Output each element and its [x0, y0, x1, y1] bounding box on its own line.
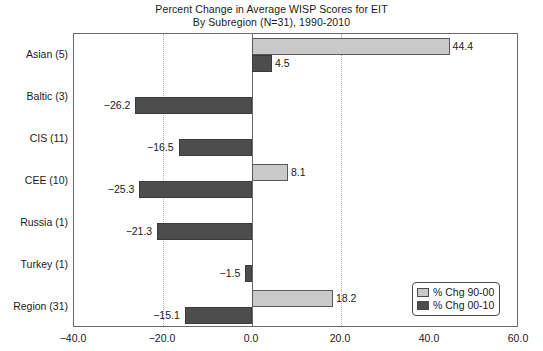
- y-axis-label-region-31-: Region (31): [0, 300, 74, 312]
- bar-cee-10--s1: [139, 181, 252, 198]
- gridline: [341, 34, 343, 326]
- chart-legend: % Chg 90-00 % Chg 00-10: [412, 282, 500, 316]
- x-tick-label: 60.0: [508, 332, 528, 344]
- bar-value-label: 4.5: [275, 55, 290, 72]
- chart-subtitle: By Subregion (N=31), 1990-2010: [0, 16, 543, 29]
- x-tick-label: −40.0: [60, 332, 87, 344]
- legend-swatch-icon-light: [417, 288, 429, 297]
- bar-value-label: −25.3: [108, 181, 135, 198]
- y-axis-label-cis-11-: CIS (11): [0, 132, 74, 144]
- y-axis-label-turkey-1-: Turkey (1): [0, 258, 74, 270]
- bar-region-31--s0: [252, 290, 333, 307]
- bar-value-label: −15.1: [153, 307, 180, 324]
- y-axis-labels: Asian (5)Baltic (3)CIS (11)CEE (10)Russi…: [0, 33, 68, 327]
- bar-turkey-1--s1: [245, 265, 252, 282]
- bar-value-label: −16.5: [147, 139, 174, 156]
- bar-russia-1--s1: [157, 223, 252, 240]
- y-axis-label-asian-5-: Asian (5): [0, 48, 74, 60]
- x-tick-label: 20.0: [330, 332, 350, 344]
- chart-title-block: Percent Change in Average WISP Scores fo…: [0, 3, 543, 29]
- bar-cis-11--s1: [179, 139, 252, 156]
- y-axis-label-baltic-3-: Baltic (3): [0, 90, 74, 102]
- bar-value-label: −1.5: [220, 265, 241, 282]
- y-axis-label-cee-10-: CEE (10): [0, 174, 74, 186]
- x-tick-label: 0.0: [244, 332, 259, 344]
- gridline: [163, 34, 165, 326]
- legend-item-chg-90-00: % Chg 90-00: [417, 286, 494, 299]
- y-axis-label-russia-1-: Russia (1): [0, 216, 74, 228]
- x-tick-label: −20.0: [149, 332, 176, 344]
- bar-value-label: −21.3: [126, 223, 153, 240]
- bar-baltic-3--s1: [135, 97, 252, 114]
- bar-value-label: 18.2: [336, 290, 356, 307]
- legend-label-chg-00-10: % Chg 00-10: [433, 299, 494, 312]
- chart-container: Percent Change in Average WISP Scores fo…: [0, 0, 543, 351]
- x-tick-label: 40.0: [419, 332, 439, 344]
- bar-region-31--s1: [185, 307, 252, 324]
- bar-value-label: 44.4: [453, 38, 473, 55]
- bar-cee-10--s0: [252, 164, 288, 181]
- chart-title: Percent Change in Average WISP Scores fo…: [0, 3, 543, 16]
- bar-asian-5--s0: [252, 38, 450, 55]
- legend-swatch-icon-dark: [417, 301, 429, 310]
- bar-value-label: 8.1: [291, 164, 306, 181]
- bar-value-label: −26.2: [104, 97, 131, 114]
- legend-item-chg-00-10: % Chg 00-10: [417, 299, 494, 312]
- bar-asian-5--s1: [252, 55, 272, 72]
- legend-label-chg-90-00: % Chg 90-00: [433, 286, 494, 299]
